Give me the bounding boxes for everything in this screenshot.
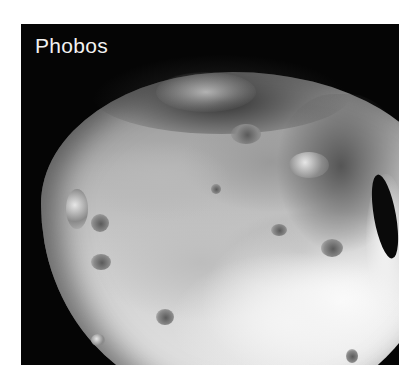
- crater: [156, 309, 174, 325]
- phobos-photo: Phobos: [21, 24, 399, 365]
- crater: [346, 349, 358, 363]
- image-label: Phobos: [35, 34, 108, 58]
- crater: [321, 239, 343, 257]
- crater: [289, 152, 329, 178]
- crater: [231, 124, 261, 144]
- crater: [66, 189, 88, 229]
- crater: [91, 254, 111, 270]
- crater: [271, 224, 287, 236]
- crater: [211, 184, 221, 194]
- page: Phobos: [0, 0, 411, 377]
- crater: [91, 214, 109, 232]
- crater: [91, 334, 105, 346]
- bright-highland: [156, 72, 256, 112]
